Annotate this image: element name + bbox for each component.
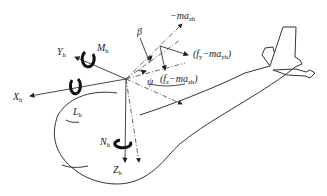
psi-label: ψ bbox=[147, 76, 154, 87]
helicopter-fuselage bbox=[54, 73, 285, 184]
top-force-label: −mazh bbox=[170, 10, 196, 22]
roll-moment-label: Lh bbox=[72, 106, 83, 118]
helicopter-axes-diagram: Xh Yh Zh Mh Lh Nh β ψ −mazh (fy−mayh) (f… bbox=[0, 0, 327, 196]
side-force-label: (fy−mayh) bbox=[193, 48, 232, 60]
moment-arrows bbox=[70, 52, 130, 148]
yaw-moment-icon bbox=[115, 140, 131, 148]
yaw-moment-label: Nh bbox=[99, 136, 111, 148]
roll-moment-icon bbox=[70, 79, 80, 94]
pitch-moment-icon bbox=[82, 52, 94, 67]
beta-label: β bbox=[136, 26, 142, 37]
y-axis-label: Yh bbox=[57, 46, 67, 58]
z-axis-label: Zh bbox=[113, 164, 123, 176]
pitch-moment-label: Mh bbox=[96, 42, 109, 54]
z-axis-arrow bbox=[125, 79, 126, 162]
x-axis-label: Xh bbox=[12, 91, 23, 103]
vertical-force-label: (fz−mazh) bbox=[160, 73, 198, 85]
helicopter-tail bbox=[245, 27, 315, 78]
